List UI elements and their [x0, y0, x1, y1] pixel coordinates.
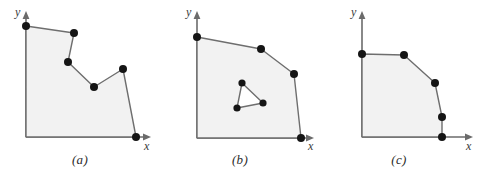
- vertex-point: [90, 83, 98, 91]
- x-axis-label: x: [143, 139, 150, 152]
- y-axis-label: y: [350, 5, 357, 19]
- vertex-point: [297, 134, 305, 142]
- hole-vertex-point: [259, 99, 266, 106]
- vertex-point: [257, 45, 265, 53]
- vertex-point: [70, 29, 78, 37]
- y-axis-arrowhead: [194, 11, 201, 19]
- vertex-point: [290, 70, 298, 78]
- panel-c-diagram: y x: [320, 0, 478, 152]
- y-axis-arrowhead: [359, 11, 366, 19]
- vertex-point: [132, 133, 140, 141]
- x-axis-label: x: [465, 139, 472, 152]
- x-axis-label: x: [307, 139, 314, 152]
- vertex-point: [400, 51, 408, 59]
- vertex-point: [358, 50, 366, 58]
- panel-c: y x (c): [320, 0, 478, 182]
- vertex-point: [438, 113, 446, 121]
- vertex-point: [431, 79, 439, 87]
- vertex-point: [193, 33, 201, 41]
- vertex-point: [64, 58, 72, 66]
- panel-a-caption: (a): [0, 152, 160, 168]
- vertex-point: [22, 22, 30, 30]
- polygon-shape: [197, 37, 301, 138]
- y-axis-label: y: [14, 5, 21, 19]
- polygon-shape: [26, 26, 136, 137]
- y-axis-label: y: [185, 5, 192, 19]
- vertex-point: [438, 133, 446, 141]
- panel-a: y x (a): [0, 0, 160, 182]
- polygon-shape: [362, 54, 442, 137]
- panel-b: y x (b): [160, 0, 320, 182]
- panel-b-diagram: y x: [160, 0, 320, 152]
- y-axis-arrowhead: [23, 11, 30, 19]
- panel-b-caption: (b): [160, 152, 320, 168]
- figure-container: y x (a) y: [0, 0, 478, 182]
- vertex-point: [119, 65, 127, 73]
- hole-vertex-point: [233, 104, 240, 111]
- panel-a-diagram: y x: [0, 0, 160, 152]
- hole-vertex-point: [238, 79, 245, 86]
- panel-c-caption: (c): [320, 152, 478, 168]
